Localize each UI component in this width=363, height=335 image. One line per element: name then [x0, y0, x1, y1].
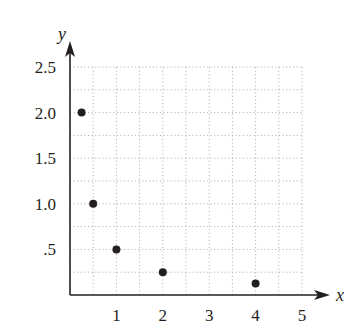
x-tick-label: 4	[251, 306, 260, 325]
x-tick-label: 3	[205, 306, 214, 325]
axes: x y	[56, 24, 344, 305]
y-tick-label: .5	[43, 240, 56, 259]
data-point	[78, 109, 86, 117]
y-tick-label: 1.5	[35, 149, 56, 168]
y-tick-label: 2.0	[35, 104, 56, 123]
x-tick-labels: 12345	[112, 306, 306, 325]
scatter-chart: x y 12345 .51.01.52.02.5	[0, 0, 363, 335]
grid	[70, 67, 302, 295]
data-point	[159, 268, 167, 276]
y-tick-labels: .51.01.52.02.5	[35, 58, 56, 259]
x-tick-label: 2	[159, 306, 168, 325]
y-tick-label: 1.0	[35, 195, 56, 214]
data-point	[112, 245, 120, 253]
x-tick-label: 1	[112, 306, 121, 325]
data-point	[89, 200, 97, 208]
x-axis-label: x	[335, 285, 344, 305]
data-point	[252, 280, 260, 288]
x-tick-label: 5	[298, 306, 307, 325]
y-axis-label: y	[56, 24, 66, 44]
y-tick-label: 2.5	[35, 58, 56, 77]
